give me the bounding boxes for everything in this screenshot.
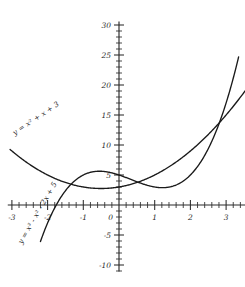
svg-text:2: 2 [187,213,193,222]
curve-label-parabola: y = x² + x + 3 [10,99,61,137]
svg-text:15: 15 [101,111,111,120]
curve-cubic [40,57,238,242]
svg-text:30: 30 [101,21,111,30]
svg-text:-10: -10 [99,261,111,270]
svg-text:1: 1 [152,213,157,222]
graph-figure: -3-2-101234 -10-551015202530 y = x² + x … [0,0,245,287]
y-axis-tick-labels: -10-551015202530 [99,21,111,270]
svg-text:-1: -1 [80,213,87,222]
svg-text:20: 20 [100,81,111,90]
svg-text:-5: -5 [104,231,112,240]
svg-text:0: 0 [108,213,113,222]
svg-text:10: 10 [101,141,111,150]
x-axis-tick-labels: -3-2-101234 [8,213,245,222]
svg-text:-3: -3 [8,213,16,222]
svg-text:3: 3 [224,213,229,222]
curve-parabola [10,66,245,189]
svg-text:25: 25 [100,51,111,60]
coordinate-plane: -3-2-101234 -10-551015202530 y = x² + x … [0,0,245,287]
